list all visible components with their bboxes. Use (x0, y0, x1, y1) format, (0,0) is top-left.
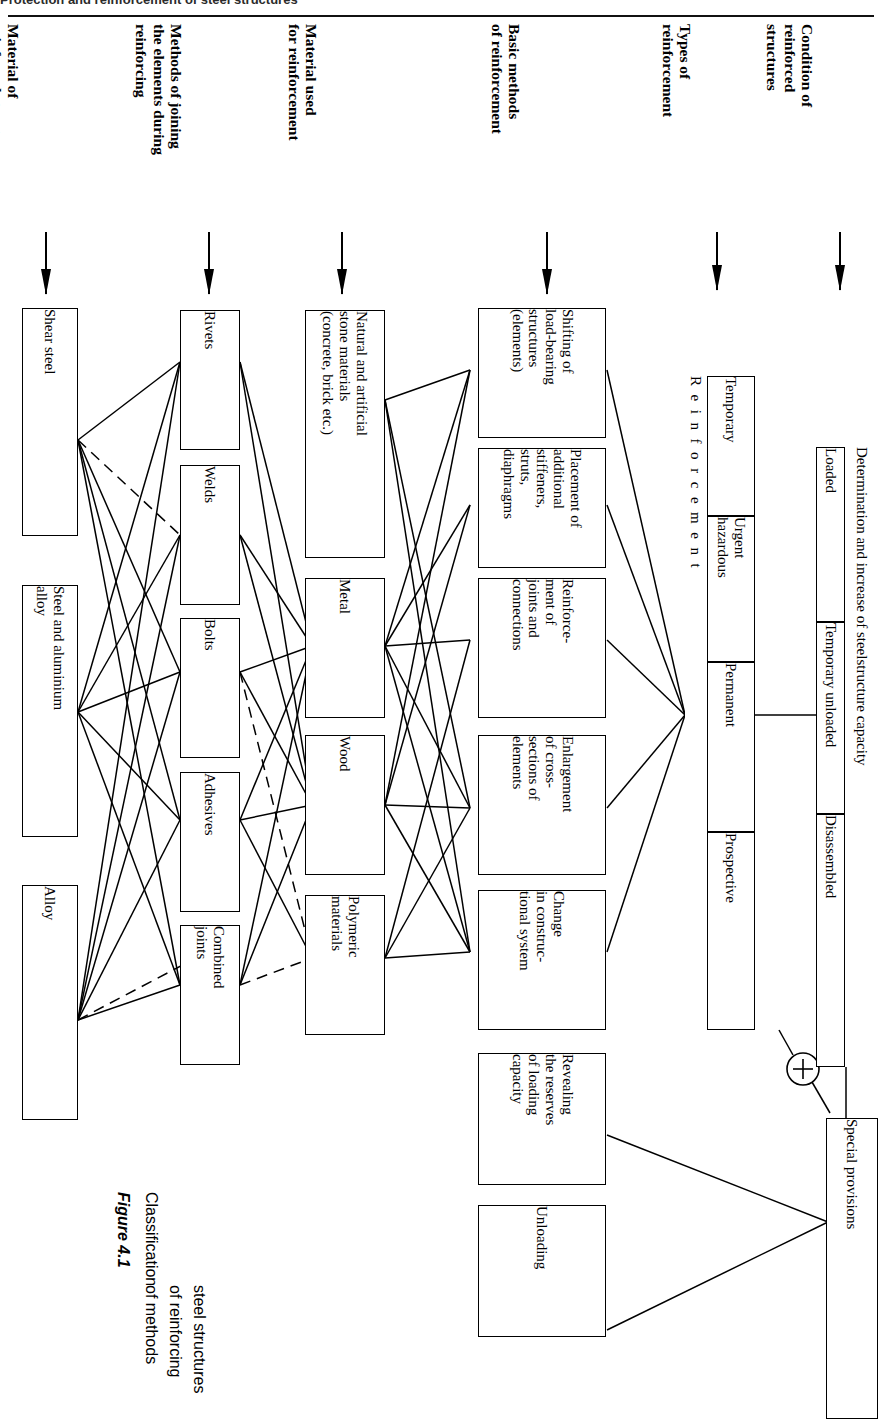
box-shear-steel-label: Shear steel (42, 309, 59, 374)
box-placement-of-additional-stiffeners[interactable]: Placement of additional stiffeners, stru… (478, 448, 606, 568)
box-adhesives-label: Adhesives (202, 773, 219, 836)
figure-page: Protection and reinforcement of steel st… (0, 0, 882, 1419)
column-heading-types-of-reinforcement: Types of reinforcement (659, 24, 694, 117)
types-of-reinforcement-spine-label: R e i n f o r c e m e n t (688, 376, 705, 570)
box-revealing-the-reserves-of-loading-capacity[interactable]: Revealing the reserves of loading capaci… (478, 1053, 606, 1185)
running-head: Protection and reinforcement of steel st… (0, 0, 882, 14)
box-loaded[interactable]: Loaded (816, 447, 845, 622)
box-special-provisions-label: Special provisions (844, 1119, 861, 1229)
box-metal[interactable]: Metal (305, 578, 385, 718)
box-natural-and-artificial-stone-materials-label: Natural and artificial stone materials (… (320, 311, 370, 436)
box-shifting-of-load-bearing-structures[interactable]: Shifting of load-bearing structures (ele… (478, 308, 606, 438)
running-head-text: Protection and reinforcement of steel st… (0, 0, 882, 7)
column-heading-material-used-for-reinforcement: Material used for reinforcement (285, 24, 320, 141)
box-unloading-label: Unloading (534, 1206, 551, 1269)
caption-line-1: Classification (142, 1192, 160, 1286)
header-rule (8, 15, 874, 17)
box-shear-steel[interactable]: Shear steel (22, 308, 78, 536)
box-rivets[interactable]: Rivets (180, 310, 240, 450)
box-combined-joints-label: Combined joints (193, 926, 227, 989)
box-disassembled[interactable]: Disassembled (816, 814, 845, 1067)
caption-line-2: of methods (142, 1285, 160, 1364)
box-enlargement-of-cross-sections-label: Enlargement of cross- sections of elemen… (508, 736, 575, 812)
box-polymeric-materials[interactable]: Polymeric materials (305, 895, 385, 1035)
box-natural-and-artificial-stone-materials[interactable]: Natural and artificial stone materials (… (305, 310, 385, 558)
box-steel-and-aluminium-alloy-label: Steel and aluminium alloy (33, 586, 67, 710)
box-reinforcement-of-joints-and-connections-label: Reinforce- ment of joints and connection… (508, 579, 575, 651)
box-rivets-label: Rivets (202, 311, 219, 349)
box-wood-label: Wood (337, 736, 354, 771)
box-temporary[interactable]: Temporary (707, 376, 755, 516)
column-heading-material-of-reinforced-structures: Material of reinforced structures (0, 24, 22, 163)
box-bolts[interactable]: Bolts (180, 618, 240, 758)
box-disassembled-label: Disassembled (822, 815, 839, 898)
box-shifting-of-load-bearing-structures-label: Shifting of load-bearing structures (ele… (508, 309, 575, 385)
box-bolts-label: Bolts (202, 619, 219, 651)
box-combined-joints[interactable]: Combined joints (180, 925, 240, 1065)
box-welds-label: Welds (202, 466, 219, 503)
box-alloy[interactable]: Alloy (22, 885, 78, 1120)
condition-spine-label: Determination and increase of steelstruc… (853, 447, 870, 766)
caption-line-3: of reinforcing (166, 1285, 184, 1378)
box-alloy-label: Alloy (42, 886, 59, 920)
box-unloading[interactable]: Unloading (478, 1205, 606, 1337)
box-wood[interactable]: Wood (305, 735, 385, 875)
box-welds[interactable]: Welds (180, 465, 240, 605)
box-permanent[interactable]: Permanent (707, 662, 755, 832)
box-temporary-label: Temporary (723, 377, 740, 443)
box-reinforcement-of-joints-and-connections[interactable]: Reinforce- ment of joints and connection… (478, 578, 606, 718)
box-permanent-label: Permanent (723, 663, 740, 727)
box-metal-label: Metal (337, 579, 354, 614)
box-revealing-the-reserves-of-loading-capacity-label: Revealing the reserves of loading capaci… (508, 1054, 575, 1125)
box-placement-of-additional-stiffeners-label: Placement of additional stiffeners, stru… (500, 449, 584, 528)
box-polymeric-materials-label: Polymeric materials (328, 896, 362, 958)
caption-line-4: steel structures (190, 1285, 208, 1393)
box-urgent-hazardous-label: Urgent hazardous (714, 517, 748, 578)
box-prospective-label: Prospective (723, 833, 740, 903)
box-urgent-hazardous[interactable]: Urgent hazardous (707, 516, 755, 662)
condition-spine: Determination and increase of steelstruc… (845, 447, 878, 1067)
box-loaded-label: Loaded (822, 448, 839, 493)
box-enlargement-of-cross-sections[interactable]: Enlargement of cross- sections of elemen… (478, 735, 606, 875)
column-heading-methods-of-joining: Methods of joining the elements during r… (133, 24, 185, 155)
box-adhesives[interactable]: Adhesives (180, 772, 240, 912)
box-special-provisions[interactable]: Special provisions (826, 1118, 878, 1419)
box-change-in-constructional-system[interactable]: Change in construc- tional system (478, 890, 606, 1030)
box-steel-and-aluminium-alloy[interactable]: Steel and aluminium alloy (22, 585, 78, 837)
column-heading-condition-of-reinforced-structures: Condition of reinforced structures (764, 24, 816, 107)
types-of-reinforcement-spine: R e i n f o r c e m e n t (685, 376, 707, 1030)
caption-figure-label: Figure 4.1 (114, 1192, 132, 1268)
box-temporary-unloaded-label: Temporary unloaded (822, 623, 839, 747)
box-prospective[interactable]: Prospective (707, 832, 755, 1030)
column-heading-basic-methods-of-reinforcement: Basic methods of reinforcement (488, 24, 523, 134)
box-temporary-unloaded[interactable]: Temporary unloaded (816, 622, 845, 814)
box-change-in-constructional-system-label: Change in construc- tional system (517, 891, 567, 971)
